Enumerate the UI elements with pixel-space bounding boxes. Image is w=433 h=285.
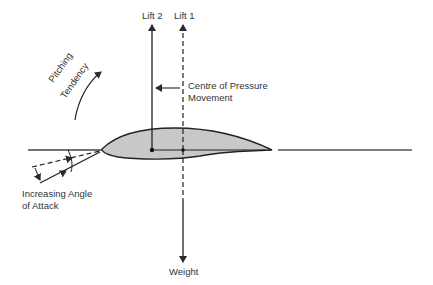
- airfoil-diagram: [0, 0, 433, 285]
- lift1-label: Lift 1: [174, 10, 195, 21]
- cop-point-1: [181, 148, 185, 152]
- airfoil: [102, 128, 272, 159]
- aoa-label-line1: Increasing Angle: [22, 188, 92, 199]
- aoa-label-line2: of Attack: [22, 200, 58, 211]
- aoa-rotation-arrow: [35, 168, 40, 180]
- weight-label: Weight: [169, 266, 198, 277]
- lift2-label: Lift 2: [142, 10, 163, 21]
- cop-point-2: [150, 148, 154, 152]
- aoa-solid-line: [40, 152, 100, 183]
- aoa-dashed-line: [32, 151, 100, 167]
- cop-label-line1: Centre of Pressure: [188, 80, 268, 91]
- cop-label-line2: Movement: [188, 92, 232, 103]
